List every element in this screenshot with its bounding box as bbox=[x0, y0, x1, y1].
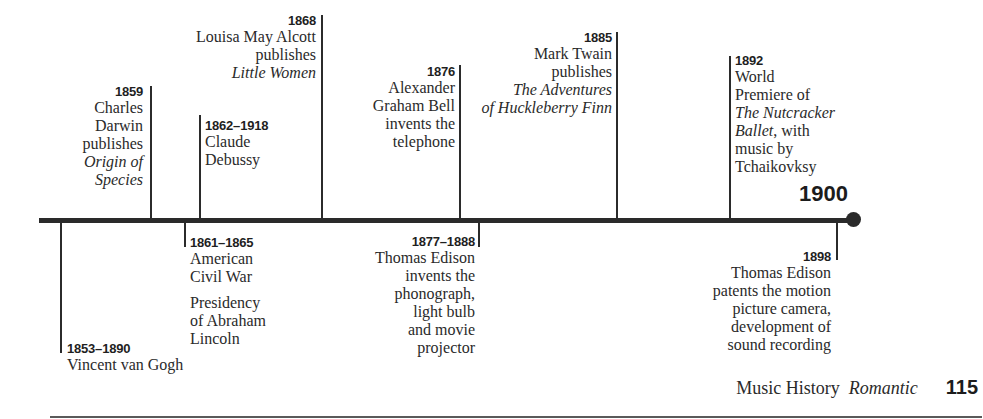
event-text: sound recording bbox=[713, 336, 831, 354]
event-text: projector bbox=[375, 339, 475, 357]
event-marker-1868 bbox=[321, 15, 323, 218]
event-text: invents the bbox=[373, 115, 455, 133]
event-text: Debussy bbox=[205, 151, 268, 169]
event-date: 1861–1865 bbox=[190, 236, 266, 250]
event-text: American bbox=[190, 250, 266, 268]
event-title: Little Women bbox=[196, 64, 316, 82]
event-text: Vincent van Gogh bbox=[67, 356, 183, 374]
event-text: publishes bbox=[196, 46, 316, 64]
event-1877: 1877–1888 Thomas Edison invents the phon… bbox=[375, 235, 475, 357]
event-text: Alexander bbox=[373, 79, 455, 97]
event-marker-1859 bbox=[150, 86, 152, 218]
event-marker-1876 bbox=[459, 65, 461, 218]
event-date: 1892 bbox=[735, 54, 835, 68]
event-text: picture camera, bbox=[713, 300, 831, 318]
event-text: Presidency bbox=[190, 294, 266, 312]
event-text: of Abraham bbox=[190, 312, 266, 330]
event-date: 1898 bbox=[713, 250, 831, 264]
event-1859: 1859 Charles Darwin publishes Origin of … bbox=[83, 85, 143, 189]
footer-section-title: Romantic bbox=[849, 378, 918, 398]
timeline-end-dot bbox=[846, 212, 861, 227]
event-text: Louisa May Alcott bbox=[196, 28, 316, 46]
event-text: Civil War bbox=[190, 268, 266, 286]
event-title: of Huckleberry Finn bbox=[481, 99, 612, 117]
event-text: Ballet, with bbox=[735, 122, 835, 140]
event-1876: 1876 Alexander Graham Bell invents the t… bbox=[373, 65, 455, 151]
footer-book-title: Music History bbox=[736, 378, 840, 398]
event-text: and movie bbox=[375, 321, 475, 339]
event-text: light bulb bbox=[375, 303, 475, 321]
footer-rule bbox=[50, 416, 982, 418]
event-text: development of bbox=[713, 318, 831, 336]
event-1885: 1885 Mark Twain publishes The Adventures… bbox=[481, 31, 612, 117]
event-1862: 1862–1918 Claude Debussy bbox=[205, 119, 268, 169]
event-text: publishes bbox=[83, 135, 143, 153]
event-title: Ballet bbox=[735, 122, 773, 139]
event-text: Premiere of bbox=[735, 86, 835, 104]
event-1892: 1892 World Premiere of The Nutcracker Ba… bbox=[735, 54, 835, 176]
event-marker-1862 bbox=[199, 115, 201, 218]
event-marker-1898 bbox=[836, 223, 838, 260]
event-date: 1862–1918 bbox=[205, 119, 268, 133]
event-date: 1853–1890 bbox=[67, 342, 183, 356]
event-title: Species bbox=[83, 171, 143, 189]
event-title: The Nutcracker bbox=[735, 104, 835, 122]
event-title: The Adventures bbox=[481, 81, 612, 99]
event-1861: 1861–1865 American Civil War Presidency … bbox=[190, 236, 266, 348]
event-text: Tchaikovksy bbox=[735, 158, 835, 176]
event-text: patents the motion bbox=[713, 282, 831, 300]
event-title: Origin of bbox=[83, 153, 143, 171]
event-text-fragment: , with bbox=[773, 122, 809, 139]
event-text: invents the bbox=[375, 267, 475, 285]
event-date: 1876 bbox=[373, 65, 455, 79]
page-number: 115 bbox=[946, 377, 978, 397]
event-text: Thomas Edison bbox=[375, 249, 475, 267]
event-text: Mark Twain bbox=[481, 45, 612, 63]
event-text: Thomas Edison bbox=[713, 264, 831, 282]
event-text: publishes bbox=[481, 63, 612, 81]
event-text: Darwin bbox=[83, 117, 143, 135]
event-date: 1868 bbox=[196, 14, 316, 28]
event-marker-1877 bbox=[478, 223, 480, 247]
event-1853: 1853–1890 Vincent van Gogh bbox=[67, 342, 183, 374]
timeline-end-label: 1900 bbox=[799, 183, 848, 205]
event-text: phonograph, bbox=[375, 285, 475, 303]
event-1898: 1898 Thomas Edison patents the motion pi… bbox=[713, 250, 831, 354]
event-marker-1861 bbox=[184, 223, 186, 247]
event-date: 1885 bbox=[481, 31, 612, 45]
timeline-axis bbox=[39, 218, 854, 223]
event-marker-1892 bbox=[729, 56, 731, 218]
event-text: Lincoln bbox=[190, 330, 266, 348]
event-marker-1853 bbox=[60, 223, 62, 353]
event-date: 1877–1888 bbox=[375, 235, 475, 249]
event-text: music by bbox=[735, 140, 835, 158]
timeline-page: 1900 1859 Charles Darwin publishes Origi… bbox=[0, 0, 983, 419]
event-text: Charles bbox=[83, 99, 143, 117]
event-text: Claude bbox=[205, 133, 268, 151]
page-footer: Music History Romantic 115 bbox=[736, 377, 978, 398]
event-1868: 1868 Louisa May Alcott publishes Little … bbox=[196, 14, 316, 82]
event-marker-1885 bbox=[616, 32, 618, 218]
event-text: World bbox=[735, 68, 835, 86]
event-date: 1859 bbox=[83, 85, 143, 99]
event-text: Graham Bell bbox=[373, 97, 455, 115]
event-text: telephone bbox=[373, 133, 455, 151]
